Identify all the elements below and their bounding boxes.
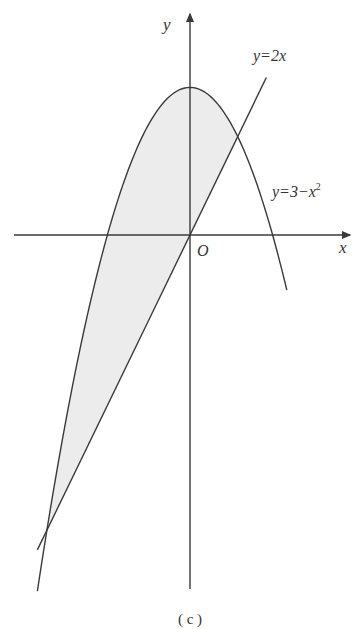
origin-label: O bbox=[197, 242, 209, 259]
figure-caption: ( c ) bbox=[178, 611, 202, 628]
parabola-equation-label: y=3−x2 bbox=[270, 181, 321, 201]
line-equation-label: y=2x bbox=[251, 47, 286, 65]
shaded-region bbox=[47, 87, 238, 530]
y-axis-label: y bbox=[161, 15, 171, 34]
x-axis-label: x bbox=[338, 238, 347, 257]
graph-canvas: y x O y=2x y=3−x2 ( c ) bbox=[0, 0, 360, 629]
